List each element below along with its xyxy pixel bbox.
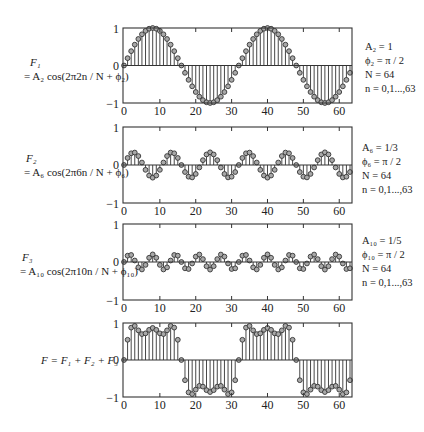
- x-tick-label: 0: [121, 398, 127, 412]
- stem-marker: [344, 390, 349, 395]
- x-tick-label: 60: [333, 301, 345, 315]
- stem-marker: [233, 266, 238, 271]
- stem-marker: [287, 325, 292, 330]
- panel-1-param-n-range: n = 0,1...,63: [365, 82, 416, 96]
- panel-3-param-amplitude: A₁₀ = 1/5: [362, 234, 413, 248]
- panel-2-param-n-range: n = 0,1...,63: [362, 183, 413, 197]
- panel-3-label-formula: = A₁₀ cos(2π10n / N + ϕ₁₀): [20, 265, 138, 278]
- stem-marker: [290, 253, 295, 258]
- stem-marker: [197, 252, 202, 257]
- stem-marker: [330, 257, 335, 262]
- stem-marker: [244, 253, 249, 258]
- stem-marker: [305, 392, 310, 397]
- stem-marker: [333, 94, 338, 99]
- x-tick-label: 30: [226, 104, 238, 118]
- stem-marker: [183, 170, 188, 175]
- x-tick-label: 30: [226, 301, 238, 315]
- x-tick-label: 60: [333, 398, 345, 412]
- stem-marker: [226, 84, 231, 89]
- stem-marker: [337, 90, 342, 95]
- stem-marker: [172, 151, 177, 156]
- stem-marker: [269, 255, 274, 260]
- stem-marker: [161, 160, 166, 165]
- stem-marker: [258, 167, 263, 172]
- stem-marker: [233, 378, 238, 383]
- x-tick-label: 10: [154, 301, 166, 315]
- x-tick-label: 60: [333, 204, 345, 218]
- stem-marker: [297, 170, 302, 175]
- stem-marker: [157, 167, 162, 172]
- panel-3-params: A₁₀ = 1/5 ϕ₁₀ = π / 2 N = 64 n = 0,1...,…: [362, 234, 413, 290]
- stem-marker: [272, 167, 277, 172]
- stem-marker: [290, 337, 295, 342]
- stem-marker: [344, 77, 349, 82]
- stem-marker: [301, 267, 306, 272]
- stem-marker: [272, 263, 277, 268]
- stem-marker: [340, 84, 345, 89]
- stem-marker: [172, 325, 177, 330]
- stem-marker: [247, 324, 252, 329]
- stem-marker: [251, 154, 256, 159]
- panel-3-param-phase: ϕ₁₀ = π / 2: [362, 248, 413, 262]
- stem-marker: [276, 32, 281, 37]
- panel-1-param-amplitude: A₂ = 1: [365, 40, 416, 54]
- stem-marker: [229, 174, 234, 179]
- stem-marker: [136, 37, 141, 42]
- stem-marker: [154, 173, 159, 178]
- stem-marker: [287, 151, 292, 156]
- x-tick-label: 20: [190, 301, 202, 315]
- panel-4-label-sum: F = F₁ + F₂ + F₃: [41, 354, 118, 367]
- stem-marker: [279, 328, 284, 333]
- stem-marker: [297, 70, 302, 75]
- stem-marker: [136, 154, 141, 159]
- stem-marker: [222, 387, 227, 392]
- stem-marker: [211, 152, 216, 157]
- stem-marker: [240, 337, 245, 342]
- stem-marker: [305, 84, 310, 89]
- stem-marker: [283, 42, 288, 47]
- stem-marker: [308, 172, 313, 177]
- stem-marker: [240, 156, 245, 161]
- x-tick-label: 0: [121, 204, 127, 218]
- stem-marker: [197, 165, 202, 170]
- x-tick-label: 10: [154, 104, 166, 118]
- stem-marker: [215, 158, 220, 163]
- x-tick-label: 50: [297, 398, 309, 412]
- stem-marker: [229, 77, 234, 82]
- stem-marker: [129, 253, 134, 258]
- stem-marker: [312, 252, 317, 257]
- stem-marker: [193, 90, 198, 95]
- stem-marker: [247, 42, 252, 47]
- stem-marker: [344, 174, 349, 179]
- panel-2-param-amplitude: A₆ = 1/3: [362, 141, 413, 155]
- stem-marker: [143, 263, 148, 268]
- panel-2-label-formula: = A₆ cos(2π6n / N + ϕ₆): [24, 166, 129, 179]
- stem-marker: [125, 156, 130, 161]
- x-tick-label: 20: [190, 204, 202, 218]
- y-tick-label-neg1: −1: [106, 97, 119, 111]
- stem-marker: [330, 158, 335, 163]
- panel-1-param-n-total: N = 64: [365, 68, 416, 82]
- stem-marker: [129, 49, 134, 54]
- panel-2-param-phase: ϕ₆ = π / 2: [362, 155, 413, 169]
- panel-1-param-phase: ϕ₂ = π / 2: [365, 54, 416, 68]
- y-tick-label-1: 1: [113, 317, 119, 331]
- stem-marker: [315, 257, 320, 262]
- y-tick-label-neg1: −1: [106, 197, 119, 211]
- stem-marker: [251, 37, 256, 42]
- stem-plot-figure: 010203040506010−1010203040506010−1010203…: [0, 0, 424, 432]
- panel-3-param-n-total: N = 64: [362, 262, 413, 276]
- x-tick-label: 30: [226, 204, 238, 218]
- stem-marker: [315, 158, 320, 163]
- panel-2-params: A₆ = 1/3 ϕ₆ = π / 2 N = 64 n = 0,1...,63: [362, 141, 413, 197]
- stem-marker: [279, 265, 284, 270]
- x-tick-label: 0: [121, 301, 127, 315]
- stem-marker: [165, 328, 170, 333]
- stem-marker: [233, 70, 238, 75]
- stem-marker: [211, 264, 216, 269]
- stem-marker: [279, 37, 284, 42]
- x-tick-label: 60: [333, 104, 345, 118]
- x-tick-label: 40: [261, 398, 273, 412]
- stem-marker: [326, 264, 331, 269]
- y-tick-label-neg1: −1: [106, 294, 119, 308]
